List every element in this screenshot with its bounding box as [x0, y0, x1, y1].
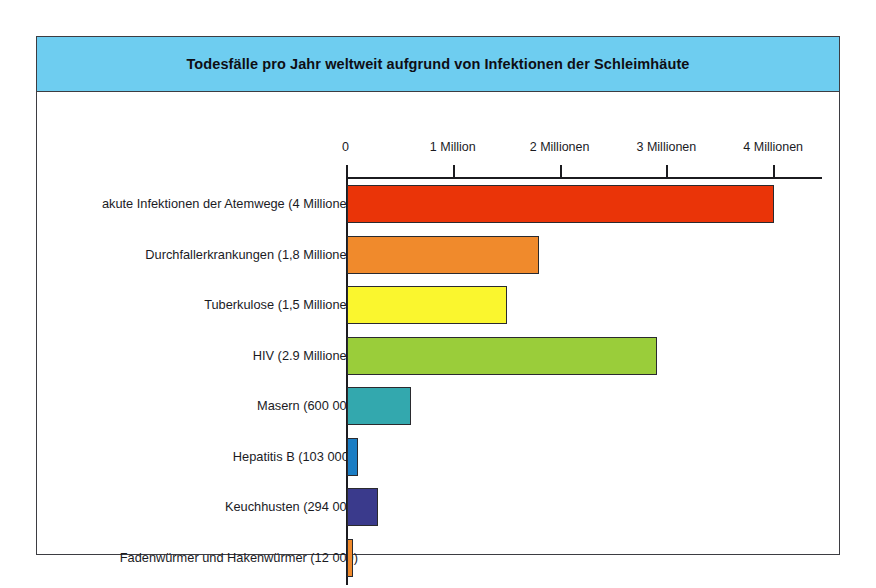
- bar-category-label: Keuchhusten (294 000): [225, 488, 358, 526]
- chart-row: Hepatitis B (103 000*): [37, 438, 839, 476]
- bar-category-label: Durchfallerkrankungen (1,8 Millionen): [145, 236, 358, 274]
- x-axis-tick-label: 1 Million: [430, 140, 476, 154]
- x-axis-tick: [346, 165, 348, 177]
- chart-row: akute Infektionen der Atemwege (4 Millio…: [37, 185, 839, 223]
- page-title: Todesfälle pro Jahr weltweit aufgrund vo…: [186, 56, 689, 72]
- chart-row: Durchfallerkrankungen (1,8 Millionen): [37, 236, 839, 274]
- chart-row: Keuchhusten (294 000): [37, 488, 839, 526]
- bar: [347, 387, 411, 425]
- bar-category-label: akute Infektionen der Atemwege (4 Millio…: [102, 185, 358, 223]
- x-axis-tick: [453, 165, 455, 177]
- bar: [347, 539, 353, 577]
- chart-title-band: Todesfälle pro Jahr weltweit aufgrund vo…: [37, 37, 839, 92]
- chart-row: Masern (600 000): [37, 387, 839, 425]
- bar-category-label: Fadenwürmer und Hakenwürmer (12 000): [120, 539, 358, 577]
- bar: [347, 185, 774, 223]
- x-axis-tick-label: 2 Millionen: [530, 140, 590, 154]
- bar-category-label: Hepatitis B (103 000*): [233, 438, 358, 476]
- x-axis-tick: [773, 165, 775, 177]
- chart-row: Fadenwürmer und Hakenwürmer (12 000): [37, 539, 839, 577]
- x-axis-tick-label: 3 Millionen: [637, 140, 697, 154]
- bar: [347, 286, 507, 324]
- bar: [347, 337, 657, 375]
- x-axis-tick-label: 0: [342, 140, 349, 154]
- x-axis-tick: [560, 165, 562, 177]
- x-axis-tick: [666, 165, 668, 177]
- bar: [347, 488, 378, 526]
- chart-frame: Todesfälle pro Jahr weltweit aufgrund vo…: [36, 36, 840, 555]
- bar-category-label: HIV (2.9 Millionen): [253, 337, 358, 375]
- x-axis-tick-label: 4 Millionen: [743, 140, 803, 154]
- plot-area: 01 Million2 Millionen3 Millionen4 Millio…: [37, 92, 839, 554]
- bar-category-label: Masern (600 000): [257, 387, 358, 425]
- bar: [347, 438, 358, 476]
- x-axis-line: [346, 177, 822, 179]
- chart-row: HIV (2.9 Millionen): [37, 337, 839, 375]
- chart-row: Tuberkulose (1,5 Millionen): [37, 286, 839, 324]
- bar: [347, 236, 539, 274]
- bar-category-label: Tuberkulose (1,5 Millionen): [204, 286, 358, 324]
